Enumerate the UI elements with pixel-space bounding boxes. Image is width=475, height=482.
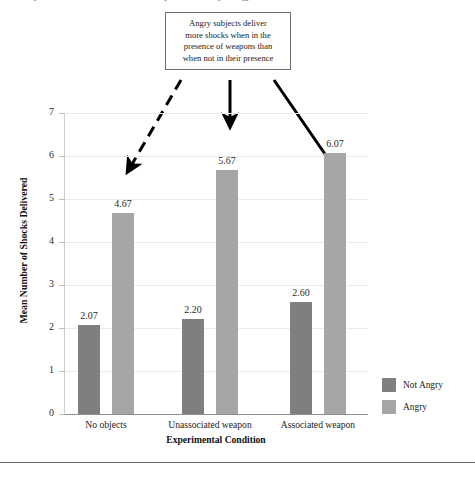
annotation-line-3: presence of weapons than bbox=[170, 41, 286, 53]
legend-item-not-angry: Not Angry bbox=[382, 374, 443, 396]
y-tick-label-3: 3 bbox=[28, 278, 54, 289]
bar-no-objects-not-angry bbox=[78, 325, 100, 414]
bar-value-label: 2.07 bbox=[67, 310, 111, 321]
legend-label-angry: Angry bbox=[403, 402, 427, 412]
bar-value-label: 6.07 bbox=[313, 138, 357, 149]
bar-associated-weapon-not-angry bbox=[290, 302, 312, 414]
legend-swatch-angry bbox=[382, 400, 396, 414]
figure-container: published in the Journal of Personality … bbox=[0, 0, 475, 482]
x-axis-line bbox=[64, 414, 368, 415]
y-tick-label-5: 5 bbox=[28, 192, 54, 203]
legend-label-not-angry: Not Angry bbox=[403, 380, 443, 390]
bar-unassociated-weapon-angry bbox=[216, 170, 238, 414]
bar-value-label: 4.67 bbox=[101, 198, 145, 209]
y-tick-label-2: 2 bbox=[28, 321, 54, 332]
legend: Not Angry Angry bbox=[382, 374, 443, 418]
y-axis-title: Mean Number of Shocks Delivered bbox=[18, 146, 29, 356]
annotation-line-2: more shocks when in the bbox=[170, 30, 286, 42]
annotation-callout-box: Angry subjects deliver more shocks when … bbox=[165, 12, 291, 70]
y-tick-label-1: 1 bbox=[28, 364, 54, 375]
legend-swatch-not-angry bbox=[382, 378, 396, 392]
category-label-unassociated-weapon: Unassociated weapon bbox=[150, 419, 270, 430]
bar-value-label: 5.67 bbox=[205, 155, 249, 166]
bar-no-objects-angry bbox=[112, 213, 134, 414]
clipped-top-caption: published in the Journal of Personality … bbox=[34, 0, 454, 3]
bottom-horizontal-rule bbox=[0, 462, 475, 463]
annotation-line-4: when not in their presence bbox=[170, 53, 286, 65]
bar-associated-weapon-angry bbox=[324, 153, 346, 414]
annotation-line-1: Angry subjects deliver bbox=[170, 18, 286, 30]
bar-value-label: 2.60 bbox=[279, 287, 323, 298]
bar-value-label: 2.20 bbox=[171, 304, 215, 315]
bar-unassociated-weapon-not-angry bbox=[182, 319, 204, 414]
y-tick-label-0: 0 bbox=[28, 407, 54, 418]
y-tick-label-4: 4 bbox=[28, 235, 54, 246]
x-axis-title: Experimental Condition bbox=[64, 434, 368, 445]
category-label-no-objects: No objects bbox=[46, 419, 166, 430]
y-tick-label-6: 6 bbox=[28, 149, 54, 160]
legend-item-angry: Angry bbox=[382, 396, 443, 418]
category-label-associated-weapon: Associated weapon bbox=[258, 419, 378, 430]
y-tick-0 bbox=[59, 414, 65, 415]
y-tick-label-7: 7 bbox=[28, 106, 54, 117]
